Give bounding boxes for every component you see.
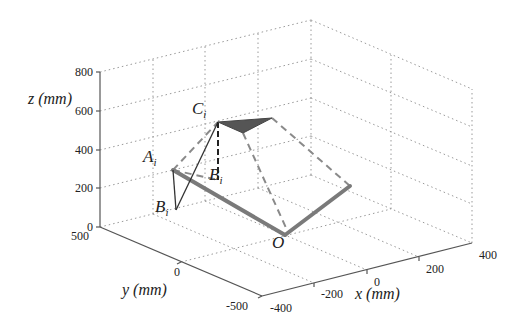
z-tick-400: 400 [75,143,93,157]
y-tick-labels: 500 0 -500 [71,229,248,313]
z-tick-800: 800 [75,65,93,79]
x-tick-labels: -400 -200 0 200 400 [270,248,497,315]
3d-plot: 0 200 400 600 800 500 0 -500 -400 -200 0… [0,0,532,329]
x-tick-200: 200 [426,262,444,276]
label-O: O [272,233,284,252]
y-axis-label: y (mm) [120,281,167,299]
platform-triangle [218,118,272,133]
grid-lines [100,20,472,283]
mechanism [173,118,350,235]
x-tick-400: 400 [479,248,497,262]
base-links [173,170,350,235]
z-tick-600: 600 [75,104,93,118]
x-tick-neg400: -400 [270,301,292,315]
x-axis-label: x (mm) [354,285,400,303]
x-tick-neg200: -200 [321,287,343,301]
z-axis-label: z (mm) [27,90,72,108]
z-tick-200: 200 [75,181,93,195]
z-tick-labels: 0 200 400 600 800 [75,65,93,234]
axes [96,72,472,298]
label-C-i: Ci [192,99,206,120]
y-tick-neg500: -500 [226,299,248,313]
label-B-i-projection: Bi [209,165,222,186]
projection-lines [173,118,350,230]
y-tick-0: 0 [174,265,180,279]
y-tick-500: 500 [71,229,89,243]
label-A-i: Ai [142,147,156,168]
label-B-i-lower: Bi [155,197,168,218]
